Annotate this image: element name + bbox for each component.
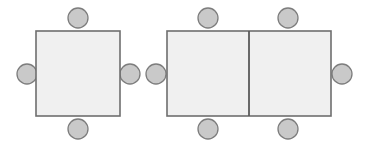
seat-bottom[interactable]: [68, 119, 88, 139]
seat-right[interactable]: [120, 64, 140, 84]
seat-top-right[interactable]: [278, 8, 298, 28]
diagram-canvas: [0, 0, 367, 148]
seat-left[interactable]: [146, 64, 166, 84]
seat-right[interactable]: [332, 64, 352, 84]
seat-bottom-left[interactable]: [198, 119, 218, 139]
seat-bottom-right[interactable]: [278, 119, 298, 139]
seat-top-left[interactable]: [198, 8, 218, 28]
seat-top[interactable]: [68, 8, 88, 28]
seat-left[interactable]: [17, 64, 37, 84]
seating-diagram: [0, 0, 367, 148]
square-table[interactable]: [36, 31, 120, 116]
